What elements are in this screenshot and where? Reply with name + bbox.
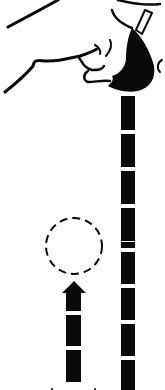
dash-segment (121, 360, 135, 390)
finger-outline-icon (78, 56, 104, 70)
cuff-outline-icon (118, 0, 160, 5)
hand-outline-icon (112, 10, 132, 28)
illustration-canvas (0, 0, 165, 390)
dash-segment (121, 134, 135, 167)
dash-segment (121, 288, 135, 320)
dash-segment (121, 171, 135, 204)
right-dashed-path (121, 96, 135, 390)
arrow-shaft-segment (66, 315, 81, 346)
hand-edge-icon (158, 60, 162, 72)
knuckle-line-2-icon (106, 40, 111, 56)
dash-segment (121, 324, 135, 356)
thumb-outline-icon (84, 71, 110, 82)
arm-outline-icon (8, 0, 58, 27)
arrow-head-icon (62, 281, 86, 311)
dashed-circle-target-icon (46, 218, 102, 274)
dash-segment (121, 96, 135, 130)
up-arrow (62, 281, 86, 382)
fist-shadow-icon (108, 28, 154, 92)
arrow-shaft-segment (66, 350, 81, 382)
dash-segment (121, 208, 135, 241)
dash-segment (121, 252, 135, 284)
dash-segment (121, 242, 135, 248)
wristband-icon (136, 10, 152, 34)
forearm-outline-icon (5, 49, 97, 92)
